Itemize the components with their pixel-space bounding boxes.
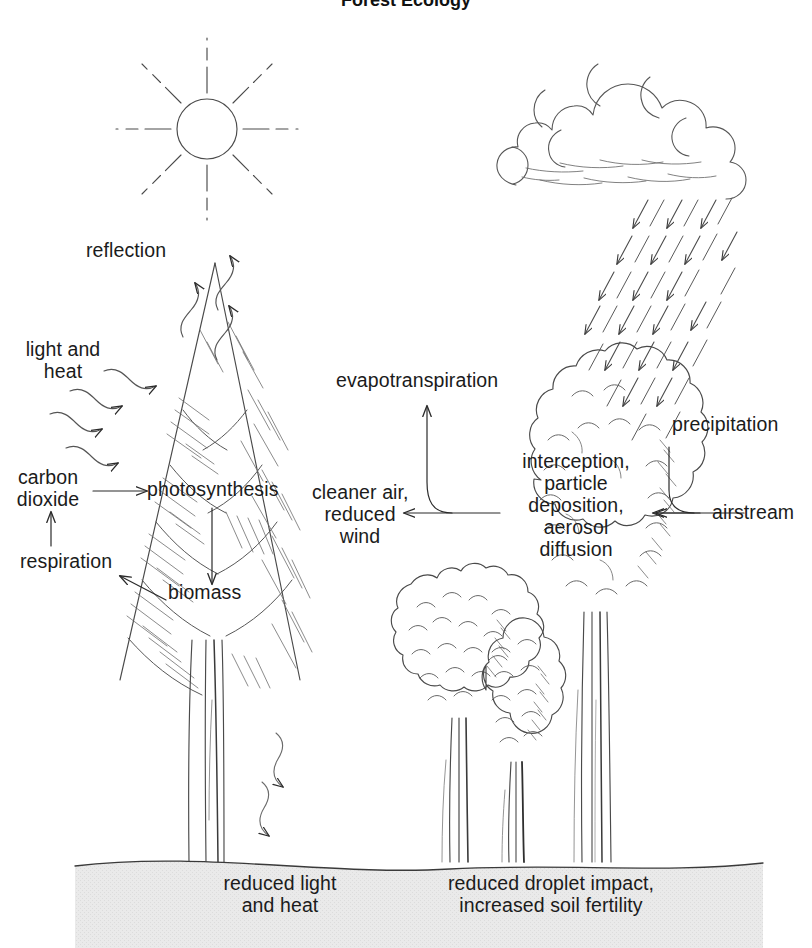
label-interception: interception, particle deposition, aeros… xyxy=(500,450,652,560)
narrow-broadleaf-tree-icon xyxy=(482,618,566,862)
sun-icon xyxy=(116,38,298,220)
label-reflection: reflection xyxy=(86,239,166,261)
label-evapotranspiration: evapotranspiration xyxy=(336,369,498,391)
evapotranspiration-arrow xyxy=(427,406,500,513)
label-cleaner-air: cleaner air, reduced wind xyxy=(312,481,408,547)
diagram-canvas: Forest Ecology xyxy=(0,0,812,948)
medium-broadleaf-tree-icon xyxy=(391,563,543,862)
label-light-and-heat: light and heat xyxy=(8,338,118,382)
rain-streaks-icon xyxy=(589,198,735,440)
label-biomass: biomass xyxy=(168,581,241,603)
rain-arrows-icon xyxy=(585,200,737,406)
precipitation-arrow xyxy=(669,447,694,513)
forest-ecology-illustration xyxy=(0,0,812,948)
label-reduced-light-and-heat: reduced light and heat xyxy=(180,872,380,916)
label-photosynthesis: photosynthesis xyxy=(147,478,278,500)
conifer-tree-icon xyxy=(120,263,312,862)
label-respiration: respiration xyxy=(20,550,112,572)
label-airstream: airstream xyxy=(712,501,794,523)
rain-cloud-icon xyxy=(497,64,746,199)
label-carbon-dioxide: carbon dioxide xyxy=(2,466,94,510)
light-heat-wavy-arrows-icon xyxy=(50,369,156,465)
label-reduced-droplet-impact: reduced droplet impact, increased soil f… xyxy=(406,872,696,916)
label-precipitation: precipitation xyxy=(672,413,778,435)
reduced-light-wavy-arrows-icon xyxy=(260,733,283,836)
